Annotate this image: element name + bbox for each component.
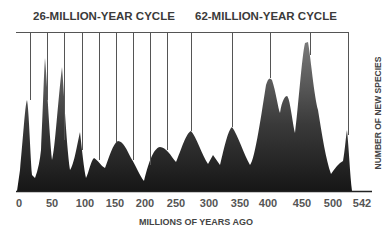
x-tick-400: 400	[259, 197, 277, 209]
x-tick-200: 200	[136, 197, 154, 209]
x-tick-542: 542	[353, 197, 371, 209]
x-tick-100: 100	[76, 197, 94, 209]
x-tick-300: 300	[200, 197, 218, 209]
x-tick-150: 150	[106, 197, 124, 209]
x-tick-350: 350	[231, 197, 249, 209]
x-tick-50: 50	[46, 197, 58, 209]
x-tick-0: 0	[16, 197, 22, 209]
x-tick-500: 500	[324, 197, 342, 209]
x-axis-label: MILLIONS OF YEARS AGO	[139, 217, 253, 227]
species-area	[17, 42, 352, 191]
y-axis-label: NUMBER OF NEW SPECIES	[373, 57, 383, 170]
x-tick-450: 450	[293, 197, 311, 209]
x-tick-250: 250	[167, 197, 185, 209]
